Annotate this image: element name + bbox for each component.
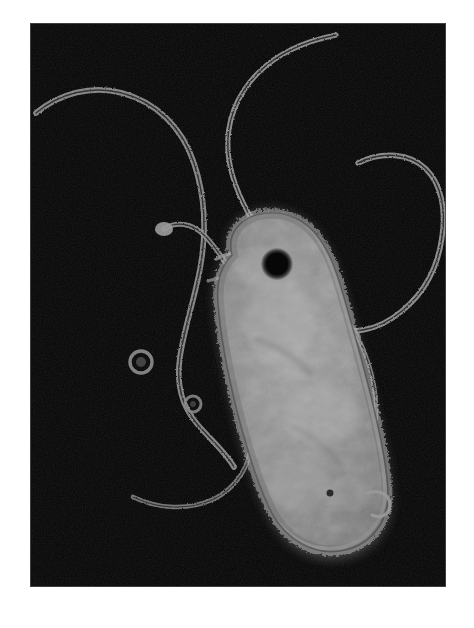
micrograph-panel xyxy=(30,23,446,587)
micrograph-image xyxy=(30,23,446,587)
dark-speck-2 xyxy=(213,368,219,374)
dark-speck-3 xyxy=(327,490,334,497)
figure-root: flagellated bacterial cell negative stai… xyxy=(0,0,474,628)
flagellar-tip-bulb xyxy=(155,222,173,236)
dark-speck-1 xyxy=(202,418,211,427)
dark-ring-organelle xyxy=(258,245,296,283)
